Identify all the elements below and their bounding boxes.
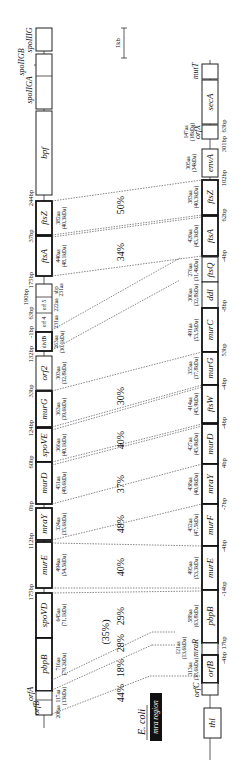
label-ftsZ-bs: ftsZ [39, 210, 49, 225]
kda-spoVE: (40,1kDa) [61, 434, 68, 457]
label-orfC: orfC [192, 682, 201, 697]
kda-mraY-bs: (35,6kDa) [61, 513, 68, 536]
kda-ddl: (32,8kDa) [193, 284, 200, 307]
identity-ftsA: 34% [115, 243, 126, 261]
label-murC: murC [205, 319, 215, 341]
homology-connectors [52, 180, 202, 714]
label-murE-ec: murE [205, 557, 215, 578]
spacer-ec-8: -4bp [220, 417, 227, 429]
identity-murG: 30% [115, 387, 126, 405]
gene-orfX [202, 125, 218, 139]
identity-orfA-mraR: 18% [115, 659, 126, 677]
kda-ftsW: (45,9kDa) [193, 393, 200, 416]
spacer-bs-4: 63bp [27, 307, 34, 320]
identity-mraY: 48% [115, 515, 126, 533]
scale-bar-label: 1kb [114, 38, 121, 48]
kda-pbpB-ec: (63,8kDa) [193, 605, 200, 628]
label-bpf: bpf [39, 146, 49, 159]
kda-ftsA-ec: (45,3kDa) [193, 225, 200, 248]
aa-sbp: 231aa [58, 283, 64, 297]
label-mraY-bs: mraY [39, 513, 49, 534]
gene-spoIIIG [36, 28, 52, 51]
kda-murC: (53,5kDa) [193, 319, 200, 342]
kda-orfX: (18kDa) [189, 123, 196, 141]
label-orfB-bs: orfB [32, 701, 41, 715]
spacer-bs-0: 244bp [27, 190, 34, 206]
spacer-bs-12: 175bp [27, 584, 34, 600]
label-mraR: mraR [191, 639, 200, 657]
label-ftsA-ec: ftsA [205, 229, 215, 244]
label-spoVE: spoVE [39, 433, 49, 457]
kda-murE-ec: (53,3kDa) [193, 557, 200, 580]
kda-divIB: (30,1kDa) [59, 331, 66, 354]
label-mraY-ec: mraY [205, 473, 215, 494]
label-pbpB-bs: pbpB [39, 654, 49, 675]
label-orfA: orfA [26, 687, 35, 701]
gene-orfC [202, 683, 218, 695]
e-coli-sizes: 147aa (18kDa) 305aa (34kDa) 383aa (40,3k… [175, 123, 200, 681]
identity-murD: 37% [115, 475, 126, 493]
identity-combined: (35%) [100, 620, 112, 645]
spacer-ec-6: 53bp [220, 344, 227, 357]
label-murE-bs: murE [39, 554, 49, 575]
label-orf2: orf2 [39, 365, 49, 381]
e-coli-spacers: 63bp 301bp 102bp 62bp -4bp -8bp 53bp -4b… [220, 120, 227, 664]
identity-orfB: 44% [115, 684, 126, 702]
label-murD-ec: murD [205, 433, 215, 455]
identity-spoVD-pbpB: 29% [115, 607, 126, 625]
kda-mraR: (13,6kDa) [181, 637, 188, 660]
spacer-ec-3: 62bp [220, 209, 227, 222]
label-spoVD: spoVD [39, 602, 49, 627]
kda-envA: (34kDa) [191, 154, 198, 172]
spacer-bs-3: 190bp [22, 289, 29, 305]
kda-ftsZ-ec: (40,3kDa) [193, 186, 200, 209]
label-orf4: orf 4 [41, 316, 47, 327]
gene-map-diagram: 1kb spoIIIG spoIIGB spoIIGA bpf ftsZ fts… [0, 0, 243, 778]
kda-murG-bs: (39,6kDa) [61, 398, 68, 421]
label-murG-ec: murG [205, 357, 215, 379]
aa-orf5: 222aa [53, 298, 59, 312]
label-ftsA-bs: ftsA [39, 249, 49, 264]
spacer-bs-8: 124bp [27, 420, 34, 436]
spacer-bs-10: 0bp [27, 501, 34, 511]
spacer-ec-9: 4bp [220, 458, 227, 468]
label-thl: thl [207, 718, 217, 728]
label-spoIIIG: spoIIIG [25, 27, 34, 52]
spacer-bs-6: 132bp [27, 346, 34, 362]
gene-spoIIGA [36, 54, 52, 109]
spacer-bs-5: -1bp [27, 326, 34, 338]
label-ftsZ-ec: ftsZ [205, 189, 215, 204]
label-ftsQ: ftsQ [205, 262, 215, 278]
label-spoIIGB: spoIIGB [17, 48, 26, 75]
spacer-ec-4: -4bp [220, 250, 227, 262]
kda-murG-ec: (37,8kDa) [193, 357, 200, 380]
spacer-bs-1: 37bp [27, 230, 34, 243]
b-subtilis-spacers: 244bp 37bp 175bp 190bp 63bp -1bp 132bp 3… [22, 190, 34, 600]
label-orf5: orf 5 [41, 299, 47, 310]
kda-murD-ec: (45,0kDa) [193, 433, 200, 456]
kda-orf2: (32,8kDa) [61, 362, 68, 385]
spacer-ec-10: -7bp [220, 498, 227, 510]
identity-ftsZ: 50% [115, 196, 126, 214]
label-envA: envA [205, 154, 215, 172]
label-mutT: mutT [191, 62, 200, 79]
kda-ftsQ: (31,4kDa) [193, 259, 200, 282]
label-divIB: divIB [41, 335, 47, 348]
label-murF: murF [205, 514, 215, 535]
identity-pbpB: 28% [115, 634, 126, 652]
spacer-bs-9: 60bp [27, 456, 34, 469]
spacer-bs-11: 112bp [27, 533, 34, 549]
spacer-ec-7: -4bp [220, 378, 227, 390]
kda-murE-bs: (54,5kDa) [61, 554, 68, 577]
gene-mutT [202, 64, 218, 79]
kda-orfA: (13kDa) [61, 687, 68, 705]
label-spoIIGA: spoIIGA [25, 76, 34, 103]
label-murD-bs: murD [39, 472, 49, 494]
label-pbpB-ec: pbpB [205, 606, 215, 627]
identity-spoVE-ftsW: 40% [115, 431, 126, 449]
aa-orfB-bs: 208aa [55, 705, 61, 719]
spacer-ec-5: -8bp [220, 300, 227, 312]
scale-bar: 1kb [114, 28, 127, 58]
kda-murF: (47,5kDa) [193, 514, 200, 537]
spacer-ec-11: -4bp [220, 540, 227, 552]
